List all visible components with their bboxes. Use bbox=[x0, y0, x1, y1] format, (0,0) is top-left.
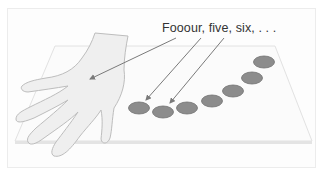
counter-5 bbox=[223, 85, 244, 97]
counter-2 bbox=[153, 106, 174, 118]
counter-4 bbox=[202, 95, 223, 107]
counter-7 bbox=[254, 56, 275, 68]
counting-caption: Fooour, five, six, . . . bbox=[162, 21, 276, 35]
counter-6 bbox=[242, 72, 263, 84]
counter-1 bbox=[129, 102, 150, 114]
counter-3 bbox=[177, 102, 198, 114]
